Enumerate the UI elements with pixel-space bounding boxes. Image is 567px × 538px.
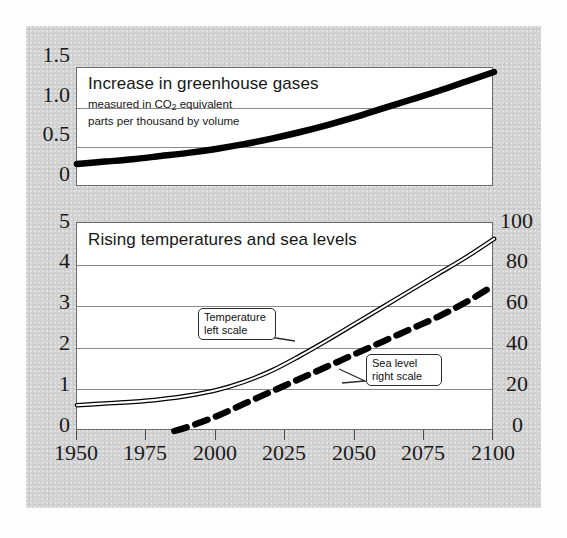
- bottom-panel-title: Rising temperatures and sea levels: [88, 230, 357, 250]
- ytick-bottom-left-3: 3: [14, 289, 70, 315]
- ytick-bottom-left-4: 4: [14, 248, 70, 274]
- top-panel-subtitle-line1b: equivalent: [176, 98, 232, 110]
- temperature-callout: Temperature left scale: [198, 308, 276, 340]
- top-panel-subtitle: measured in CO2 equivalentparts per thou…: [88, 97, 240, 128]
- ytick-bottom-right-100: 100: [500, 208, 533, 234]
- xtickmark-2000: [215, 430, 216, 440]
- ytick-top-0: 0: [14, 161, 70, 187]
- ytick-bottom-left-1: 1: [14, 371, 70, 397]
- ytick-top-1.5: 1.5: [14, 42, 70, 68]
- xtick-1950: 1950: [36, 440, 116, 466]
- xtick-2050: 2050: [314, 440, 394, 466]
- top-panel-title: Increase in greenhouse gases: [88, 74, 319, 94]
- xtick-2025: 2025: [244, 440, 324, 466]
- temperature-and-sealevel-curves: [77, 223, 494, 431]
- xtickmark-1950: [76, 430, 77, 440]
- xtickmark-1975: [145, 430, 146, 440]
- ytick-top-0.5: 0.5: [14, 121, 70, 147]
- sea-level-callout: Sea level right scale: [366, 354, 442, 386]
- ytick-bottom-left-0: 0: [14, 412, 70, 438]
- ytick-bottom-left-2: 2: [14, 330, 70, 356]
- ytick-bottom-left-5: 5: [14, 208, 70, 234]
- ytick-bottom-right-0: 0: [512, 412, 523, 438]
- xtickmark-2050: [354, 430, 355, 440]
- xtickmark-2075: [423, 430, 424, 440]
- ytick-bottom-right-40: 40: [506, 330, 528, 356]
- xtickmark-2025: [284, 430, 285, 440]
- temperature-sealevel-plot-area: [76, 222, 493, 430]
- xtickmark-2100: [492, 430, 493, 440]
- ytick-top-1.0: 1.0: [14, 82, 70, 108]
- ytick-bottom-right-20: 20: [506, 371, 528, 397]
- sea-level-callout-leader: [339, 369, 365, 383]
- xtick-2100: 2100: [453, 440, 533, 466]
- top-panel-subtitle-line1: measured in CO: [88, 98, 172, 110]
- ytick-bottom-right-60: 60: [506, 289, 528, 315]
- xtick-2000: 2000: [175, 440, 255, 466]
- xtick-2075: 2075: [383, 440, 463, 466]
- top-panel-subtitle-line2: parts per thousand by volume: [88, 115, 240, 127]
- xtick-1975: 1975: [105, 440, 185, 466]
- chart-figure: Increase in greenhouse gases measured in…: [0, 0, 567, 538]
- ytick-bottom-right-80: 80: [506, 248, 528, 274]
